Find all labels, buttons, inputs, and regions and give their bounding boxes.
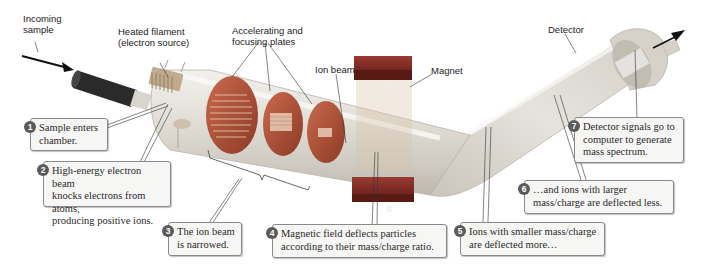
step-badge: 7 [568,120,580,132]
callout-text: The ion beam is narrowed. [177,226,236,251]
accelerating-plate-1 [206,76,258,154]
callout-step-4: 4 Magnetic field deflects particles acco… [272,224,447,258]
label-magnet: Magnet [431,65,463,76]
mass-spectrometer-diagram: Incoming sample Heated filament (electro… [0,0,703,267]
label-incoming-sample: Incoming sample [23,13,62,35]
callout-step-3: 3 The ion beam is narrowed. [168,222,242,256]
step-badge: 3 [162,225,174,237]
step-badge: 1 [24,121,36,133]
label-accelerating-plates: Accelerating and focusing plates [232,25,303,47]
callout-text: …and ions with larger mass/charge are de… [533,184,668,209]
step-badge: 6 [518,183,530,195]
callout-text: Detector signals go to computer to gener… [583,121,678,159]
step-badge: 2 [37,164,49,176]
callout-text: Sample enters chamber. [39,122,102,147]
callout-text: Ions with smaller mass/charge are deflec… [469,226,599,251]
callout-step-1: 1 Sample enters chamber. [30,118,108,151]
step-badge: 5 [454,225,466,237]
label-detector: Detector [548,24,584,35]
label-heated-filament: Heated filament (electron source) [118,26,189,48]
callout-step-2: 2 High-energy electron beam knocks elect… [43,161,171,207]
callout-step-6: 6 …and ions with larger mass/charge are … [524,180,674,214]
callout-step-7: 7 Detector signals go to computer to gen… [574,117,684,163]
callout-text: Magnetic field deflects particles accord… [281,228,441,253]
callout-text: High-energy electron beam knocks electro… [52,165,165,228]
label-ion-beam: Ion beam [315,64,355,75]
magnet-south-label: S [386,204,392,214]
callout-step-5: 5 Ions with smaller mass/charge are defl… [460,222,605,256]
step-badge: 4 [266,227,278,239]
incoming-arrow [22,56,68,68]
magnet-north-label: N [386,79,393,89]
